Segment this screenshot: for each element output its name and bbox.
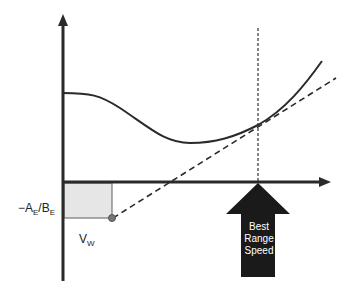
label-part: /B [38, 201, 49, 215]
wind-offset-point [109, 215, 116, 222]
arrow-label-line: Speed [239, 245, 279, 257]
shaded-region [64, 183, 112, 218]
label-part: −A [18, 201, 33, 215]
label-sub: W [87, 239, 95, 248]
best-range-speed-label: Best Range Speed [239, 221, 279, 257]
diagram-canvas [0, 0, 350, 298]
x-axis-arrowhead [319, 177, 331, 187]
y-intercept-label: −AE/BE [18, 201, 55, 217]
power-curve [63, 61, 322, 143]
label-sub: E [50, 208, 55, 217]
arrow-label-line: Range [239, 233, 279, 245]
arrow-label-line: Best [239, 221, 279, 233]
y-axis-arrowhead [58, 14, 68, 26]
tangent-line [113, 78, 336, 218]
wind-speed-label: VW [79, 232, 95, 248]
label-part: V [79, 232, 87, 246]
